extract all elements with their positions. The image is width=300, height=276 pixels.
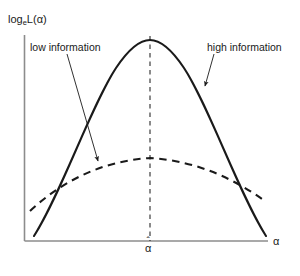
high-information-arrow	[205, 54, 214, 86]
low-information-arrow	[67, 54, 98, 161]
y-axis-label-suffix: L(α)	[27, 13, 47, 25]
mle-tick-label: ˆα	[145, 243, 151, 254]
likelihood-curvature-figure: logeL(α) low information high informatio…	[0, 0, 300, 276]
y-axis-label: logeL(α)	[8, 14, 47, 26]
y-axis-label-prefix: log	[8, 13, 23, 25]
x-axis-label: α	[273, 236, 279, 247]
low-information-curve	[30, 158, 262, 211]
alpha-hat-glyph: ˆα	[145, 243, 151, 254]
low-information-annotation: low information	[30, 42, 101, 53]
high-information-annotation: high information	[207, 42, 282, 53]
hat-accent-icon: ˆ	[147, 237, 150, 247]
